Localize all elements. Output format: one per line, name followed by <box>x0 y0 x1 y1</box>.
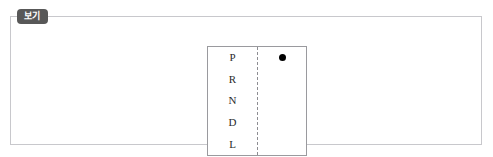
gear-label-r: R <box>229 74 236 85</box>
gear-label-d: D <box>229 117 237 128</box>
gear-label-column: P R N D L <box>208 47 257 155</box>
figure-tab-text: 보기 <box>24 12 41 21</box>
gear-label-l: L <box>229 139 236 150</box>
gear-selector-diagram: P R N D L <box>207 46 307 156</box>
gear-slot-n <box>278 95 286 106</box>
gear-slot-r <box>278 74 286 85</box>
gear-slot-p <box>278 52 286 63</box>
gear-position-column <box>258 47 306 155</box>
figure-tab-label: 보기 <box>17 9 48 24</box>
gear-slot-l <box>278 139 286 150</box>
gear-slot-d <box>278 117 286 128</box>
figure-panel: P R N D L <box>10 16 482 145</box>
gear-label-n: N <box>229 95 237 106</box>
gear-label-p: P <box>229 52 235 63</box>
